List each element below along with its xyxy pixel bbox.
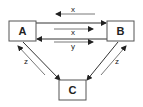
flow-arrow-right	[101, 46, 126, 75]
flow-label-low: y	[71, 42, 75, 51]
edge-a-to-c	[23, 42, 60, 80]
flow-label-left: z	[24, 57, 28, 66]
flow-label-right: z	[115, 57, 119, 66]
node-c-label: C	[69, 84, 77, 96]
flow-label-top: x	[71, 5, 75, 14]
flow-label-mid: x	[71, 28, 75, 37]
diagram-canvas: A B C x x y z z	[0, 0, 143, 107]
node-a-label: A	[19, 25, 27, 37]
node-b-label: B	[117, 25, 125, 37]
